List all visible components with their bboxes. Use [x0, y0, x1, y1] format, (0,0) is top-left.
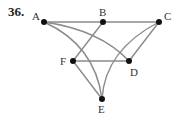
label-d: D — [130, 66, 138, 78]
node-c — [156, 19, 162, 25]
label-c: C — [164, 10, 171, 22]
label-b: B — [99, 6, 106, 18]
graph-diagram: A B C F D E — [0, 0, 182, 118]
label-a: A — [32, 10, 40, 22]
label-e: E — [98, 103, 105, 115]
edge-c-d — [129, 22, 159, 61]
node-a — [41, 19, 47, 25]
label-f: F — [60, 55, 66, 67]
node-e — [99, 96, 105, 102]
node-b — [100, 19, 106, 25]
edge-b-f — [73, 22, 103, 61]
node-f — [70, 58, 76, 64]
node-d — [126, 58, 132, 64]
